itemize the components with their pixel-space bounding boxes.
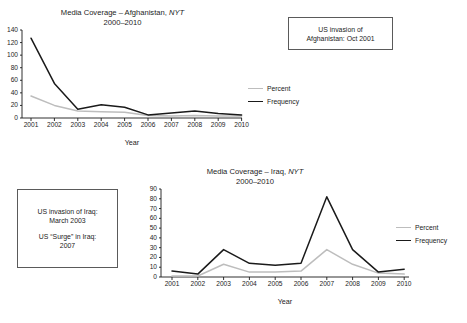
y-tick: 0: [153, 274, 157, 281]
afghanistan-svg: [20, 26, 244, 122]
y-tick: 50: [150, 225, 157, 232]
y-tick: 70: [150, 205, 157, 212]
iraq-title-main: Media Coverage – Iraq,: [207, 167, 286, 176]
annotation-line: US “Surge” in Iraq:: [39, 232, 96, 241]
iraq-x-axis-labels: 2001 2002 2003 2004 2005 2006 2007 2008 …: [159, 281, 411, 291]
iraq-series-frequency: [172, 197, 404, 274]
x-tick: 2006: [294, 281, 309, 288]
y-tick: 100: [7, 52, 18, 59]
y-tick: 90: [150, 186, 157, 193]
chart-iraq: Media Coverage – Iraq, NYT 2000–2010 90 …: [140, 167, 430, 323]
x-tick: 2009: [211, 122, 226, 129]
annotation-line: March 2003: [49, 216, 85, 225]
afghanistan-title-italic: NYT: [169, 8, 184, 17]
x-tick: 2008: [187, 122, 202, 129]
x-tick: 2007: [164, 122, 179, 129]
x-tick: 2006: [141, 122, 156, 129]
afghanistan-title-main: Media Coverage – Afghanistan,: [61, 8, 167, 17]
annotation-line: 2007: [60, 241, 75, 250]
y-tick: 80: [150, 195, 157, 202]
x-tick: 2004: [242, 281, 257, 288]
y-tick: 30: [150, 244, 157, 251]
iraq-x-axis-title: Year: [159, 297, 411, 306]
annotation-line: US invasion of: [318, 25, 362, 34]
afghanistan-chart-title: Media Coverage – Afghanistan, NYT: [0, 8, 245, 18]
x-tick: 2007: [319, 281, 334, 288]
iraq-chart-title: Media Coverage – Iraq, NYT: [140, 167, 370, 177]
y-tick: 0: [14, 115, 18, 122]
afghanistan-plot-area: 140 120 100 80 60 40 20 0: [0, 30, 245, 120]
x-tick: 2001: [24, 122, 39, 129]
afghanistan-x-axis-title: Year: [20, 138, 244, 147]
afghanistan-series-frequency: [31, 38, 242, 115]
x-tick: 2003: [216, 281, 231, 288]
annotation-line: US invasion of Iraq:: [37, 207, 97, 216]
iraq-series-percent: [172, 250, 404, 276]
x-tick: 2002: [190, 281, 205, 288]
y-tick: 40: [150, 235, 157, 242]
y-tick: 10: [150, 264, 157, 271]
percent-line-swatch: [248, 88, 263, 89]
y-tick: 120: [7, 39, 18, 46]
legend-item-frequency: Frequency: [248, 96, 299, 106]
afghanistan-x-axis-labels: 2001 2002 2003 2004 2005 2006 2007 2008 …: [20, 122, 244, 132]
afghanistan-y-axis-labels: 140 120 100 80 60 40 20 0: [0, 30, 18, 118]
x-tick: 2003: [70, 122, 85, 129]
x-tick: 2005: [268, 281, 283, 288]
x-tick: 2005: [117, 122, 132, 129]
legend-label-frequency: Frequency: [267, 98, 299, 105]
y-tick: 60: [11, 77, 18, 84]
frequency-line-swatch: [396, 240, 411, 241]
legend-label-percent: Percent: [267, 85, 290, 92]
y-tick: 60: [150, 215, 157, 222]
x-tick: 2010: [234, 122, 249, 129]
y-tick: 80: [11, 64, 18, 71]
percent-line-swatch: [396, 227, 411, 228]
legend-label-frequency: Frequency: [415, 237, 447, 244]
iraq-y-axis-labels: 90 80 70 60 50 40 30 20 10 0: [140, 189, 157, 277]
y-tick: 20: [150, 254, 157, 261]
legend-item-percent: Percent: [396, 222, 447, 232]
annotation-line: Afghanistan: Oct 2001: [306, 34, 374, 43]
annotation-box-afghanistan-invasion: US invasion of Afghanistan: Oct 2001: [288, 17, 393, 50]
x-tick: 2004: [94, 122, 109, 129]
y-tick: 40: [11, 90, 18, 97]
x-tick: 2010: [397, 281, 412, 288]
iraq-title-italic: NYT: [288, 167, 303, 176]
x-tick: 2001: [165, 281, 180, 288]
frequency-line-swatch: [248, 101, 263, 102]
annotation-box-iraq-events: US invasion of Iraq: March 2003 US “Surg…: [17, 189, 118, 268]
iraq-svg: [159, 185, 411, 281]
legend-item-frequency: Frequency: [396, 235, 447, 245]
iraq-legend: Percent Frequency: [396, 222, 447, 248]
y-tick: 20: [11, 102, 18, 109]
x-tick: 2002: [47, 122, 62, 129]
x-tick: 2008: [345, 281, 360, 288]
y-tick: 140: [7, 27, 18, 34]
afghanistan-legend: Percent Frequency: [248, 83, 299, 109]
chart-afghanistan: Media Coverage – Afghanistan, NYT 2000–2…: [0, 8, 245, 158]
x-tick: 2009: [371, 281, 386, 288]
legend-label-percent: Percent: [415, 224, 438, 231]
legend-item-percent: Percent: [248, 83, 299, 93]
iraq-plot-area: 90 80 70 60 50 40 30 20 10 0: [140, 189, 430, 284]
